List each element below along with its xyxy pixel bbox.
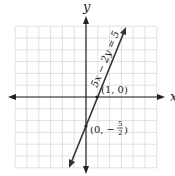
- x-axis-right-arrow-icon: [157, 94, 165, 100]
- point2-denominator: 2: [118, 129, 122, 137]
- point2-label: (0, − 5 2 ): [90, 120, 128, 137]
- point-y-intercept: [84, 124, 87, 127]
- y-axis-label: y: [82, 0, 91, 14]
- point2-suffix: ): [124, 124, 128, 135]
- point1-label: (1, 0): [101, 84, 128, 95]
- point2-prefix: (0, −: [90, 124, 115, 135]
- x-axis-label: x: [170, 89, 175, 104]
- x-axis-left-arrow-icon: [8, 94, 16, 100]
- coordinate-plane: y x 5x − 2y = 5 (1, 0) (0, − 5 2 ): [0, 0, 175, 176]
- y-axis-down-arrow-icon: [83, 166, 89, 174]
- y-axis-up-arrow-icon: [83, 16, 89, 24]
- point2-numerator: 5: [118, 120, 122, 128]
- point-x-intercept: [95, 95, 98, 98]
